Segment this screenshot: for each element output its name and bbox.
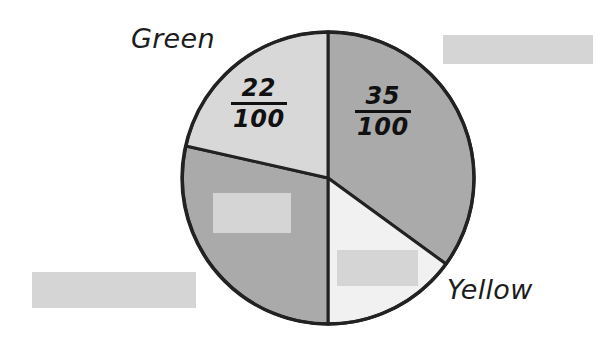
redacted-fraction-lower-left-slice (213, 193, 291, 233)
fraction-red-slice: 35 100 (355, 84, 411, 140)
redacted-fraction-yellow-slice (337, 250, 418, 286)
fraction-green-numerator: 22 (240, 76, 278, 101)
redacted-label-left-outside (32, 272, 196, 308)
fraction-green-slice: 22 100 (231, 76, 287, 132)
fraction-green-denominator: 100 (231, 107, 287, 131)
pie-label-yellow: Yellow (447, 274, 533, 305)
fraction-red-numerator: 35 (364, 84, 402, 109)
redacted-label-top-right (443, 35, 593, 64)
fraction-red-denominator: 100 (355, 115, 411, 139)
pie-label-green: Green (131, 23, 215, 54)
figure-canvas: 22 100 35 100 Green Yellow (0, 0, 597, 361)
